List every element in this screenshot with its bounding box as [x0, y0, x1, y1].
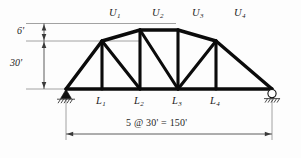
node-label-L2: L2: [134, 96, 143, 107]
dimension-height: [42, 41, 47, 89]
truss-figure: [0, 0, 301, 158]
dimension-rise: [42, 24, 47, 42]
node-label-L3: L3: [172, 96, 181, 107]
node-label-L4: L4: [210, 96, 219, 107]
roller-support-icon: [264, 90, 280, 103]
dimension-label-rise: 6': [17, 26, 24, 36]
truss-diagram: U1 U2 U3 U4 L1 L2 L3 L4 6' 30' 5 @ 30' =…: [0, 0, 301, 158]
dimension-label-height: 30': [10, 58, 22, 68]
node-label-U1: U1: [109, 8, 120, 19]
dimension-span: [66, 132, 272, 137]
node-label-U3: U3: [192, 8, 203, 19]
truss-chords: [66, 30, 272, 89]
node-label-U2: U2: [152, 8, 163, 19]
node-label-L1: L1: [96, 96, 105, 107]
truss-web-members: [66, 30, 272, 89]
dimension-label-span: 5 @ 30' = 150': [126, 118, 187, 128]
node-label-U4: U4: [234, 8, 245, 19]
